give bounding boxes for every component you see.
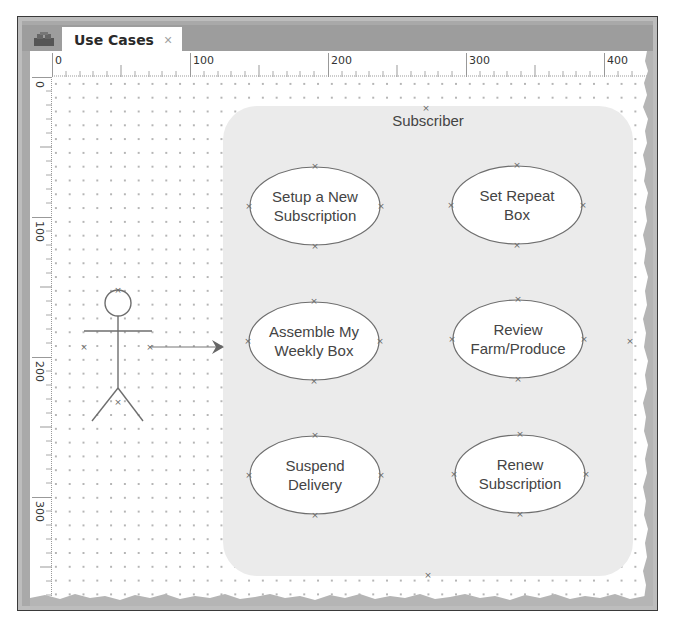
ruler-label: 300 (33, 501, 46, 522)
use-case-suspend-delivery[interactable]: Suspend Delivery (249, 435, 381, 515)
ruler-label: 300 (469, 54, 490, 67)
ruler-corner (30, 51, 52, 77)
use-case-review-farm-produce[interactable]: Review Farm/Produce (452, 299, 584, 379)
diagram-app-icon (32, 31, 56, 47)
close-icon[interactable]: × (164, 32, 172, 48)
editor-window: Use Cases × (17, 16, 658, 611)
vertical-ruler: 0 100 200 300 (30, 77, 52, 606)
window-chrome: Use Cases × (22, 21, 653, 606)
use-case-label: Assemble My Weekly Box (248, 301, 380, 381)
horizontal-ruler: 0 100 200 300 400 (52, 51, 653, 77)
ruler-label: 0 (33, 81, 46, 88)
ruler-label: 200 (33, 361, 46, 382)
ruler-label: 100 (33, 221, 46, 242)
use-case-setup-new-subscription[interactable]: Setup a New Subscription (249, 166, 381, 246)
torn-edge-right (641, 51, 653, 606)
tab-label: Use Cases (74, 32, 154, 48)
use-case-label: Set Repeat Box (451, 165, 583, 245)
system-boundary-title: Subscriber (223, 112, 633, 129)
ruler-label: 400 (607, 54, 628, 67)
use-case-label: Review Farm/Produce (452, 299, 584, 379)
use-case-assemble-weekly-box[interactable]: Assemble My Weekly Box (248, 301, 380, 381)
tab-use-cases[interactable]: Use Cases × (62, 27, 182, 53)
ruler-label: 100 (193, 54, 214, 67)
use-case-label: Setup a New Subscription (249, 166, 381, 246)
ruler-label: 200 (331, 54, 352, 67)
use-case-renew-subscription[interactable]: Renew Subscription (454, 434, 586, 514)
tab-bar: Use Cases × (22, 25, 653, 51)
use-case-label: Renew Subscription (454, 434, 586, 514)
ruler-label: 0 (55, 54, 62, 67)
use-case-set-repeat-box[interactable]: Set Repeat Box (451, 165, 583, 245)
torn-edge-bottom (30, 586, 653, 606)
diagram-canvas[interactable]: 0 100 200 300 400 (30, 51, 653, 606)
use-case-label: Suspend Delivery (249, 435, 381, 515)
